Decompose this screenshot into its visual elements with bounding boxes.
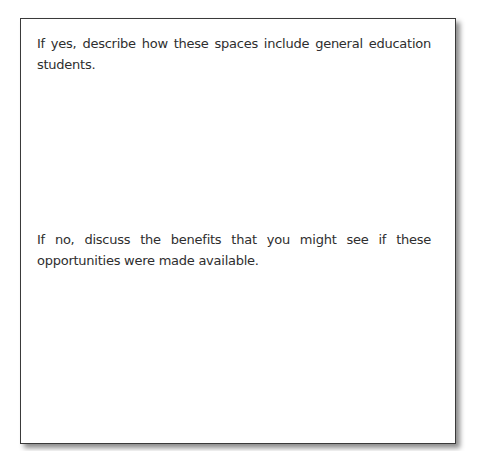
worksheet-response-box: If yes, describe how these spaces includ… xyxy=(20,18,456,444)
prompt-if-no: If no, discuss the benefits that you mig… xyxy=(37,229,431,271)
answer-area-if-no[interactable] xyxy=(37,277,431,437)
answer-area-if-yes[interactable] xyxy=(37,59,431,219)
